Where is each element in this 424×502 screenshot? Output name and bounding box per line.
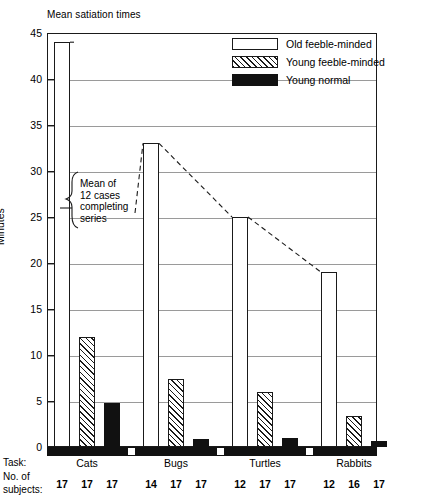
y-tick-label: 35 bbox=[20, 119, 42, 131]
y-tick-label: 45 bbox=[20, 27, 42, 39]
group-label-turtles: Turtles bbox=[249, 457, 281, 469]
subjects-row-label-line2: subjects: bbox=[3, 484, 42, 495]
legend-label-0: Old feeble-minded bbox=[286, 38, 372, 50]
subject-count-turtles-0: 12 bbox=[234, 478, 246, 490]
bar-rabbits-series-1 bbox=[346, 416, 362, 447]
legend-swatch-open-icon bbox=[232, 38, 278, 50]
y-axis-label: Minutes bbox=[0, 208, 6, 245]
y-tick-label: 0 bbox=[20, 441, 42, 453]
baseline-gap bbox=[216, 447, 225, 456]
bar-bugs-series-2 bbox=[193, 439, 209, 447]
chart-figure: Mean satiation times Minutes 05101520253… bbox=[0, 0, 424, 502]
legend-label-1: Young feeble-minded bbox=[286, 56, 385, 68]
y-tick-mark bbox=[47, 355, 54, 356]
gridline bbox=[48, 264, 376, 265]
gridline bbox=[48, 172, 376, 173]
baseline-segment bbox=[47, 447, 127, 456]
annotation-text: Mean of 12 cases completing series bbox=[80, 178, 128, 224]
bar-turtles-series-0 bbox=[232, 217, 248, 447]
y-tick-mark bbox=[47, 79, 54, 80]
subject-count-rabbits-1: 16 bbox=[348, 478, 360, 490]
legend-item-old-feeble-minded: Old feeble-minded bbox=[232, 36, 385, 52]
y-tick-label: 30 bbox=[20, 165, 42, 177]
y-tick-label: 15 bbox=[20, 303, 42, 315]
gridline bbox=[48, 126, 376, 127]
y-tick-mark bbox=[47, 309, 54, 310]
legend-label-2: Young normal bbox=[286, 74, 350, 86]
y-tick-mark bbox=[47, 125, 54, 126]
y-tick-mark bbox=[47, 217, 54, 218]
subject-count-rabbits-2: 17 bbox=[373, 478, 385, 490]
group-label-cats: Cats bbox=[76, 457, 98, 469]
bar-turtles-series-2 bbox=[282, 438, 298, 447]
baseline-segment bbox=[314, 447, 377, 456]
subject-count-bugs-1: 17 bbox=[170, 478, 182, 490]
baseline-gap bbox=[127, 447, 136, 456]
subject-count-cats-1: 17 bbox=[81, 478, 93, 490]
bar-rabbits-series-0 bbox=[321, 272, 337, 447]
legend-swatch-hatch-icon bbox=[232, 56, 278, 68]
y-tick-mark bbox=[47, 33, 54, 34]
bar-bugs-series-1 bbox=[168, 379, 184, 447]
baseline-gap bbox=[305, 447, 314, 456]
bar-cats-series-0 bbox=[54, 42, 70, 447]
chart-title: Mean satiation times bbox=[47, 9, 141, 20]
bar-bugs-series-0 bbox=[143, 143, 159, 447]
subjects-row-label-line1: No. of bbox=[3, 471, 30, 482]
subject-count-cats-2: 17 bbox=[106, 478, 118, 490]
bar-cats-series-1 bbox=[79, 337, 95, 447]
subject-count-cats-0: 17 bbox=[56, 478, 68, 490]
legend-item-young-feeble-minded: Young feeble-minded bbox=[232, 54, 385, 70]
baseline-segment bbox=[225, 447, 305, 456]
subject-count-turtles-2: 17 bbox=[284, 478, 296, 490]
chart-legend: Old feeble-minded Young feeble-minded Yo… bbox=[232, 36, 385, 90]
y-tick-label: 40 bbox=[20, 73, 42, 85]
y-tick-mark bbox=[47, 171, 54, 172]
y-tick-mark bbox=[47, 401, 54, 402]
subject-count-turtles-1: 17 bbox=[259, 478, 271, 490]
y-tick-mark bbox=[47, 263, 54, 264]
subject-count-rabbits-0: 12 bbox=[323, 478, 335, 490]
task-row-label: Task: bbox=[3, 457, 26, 468]
group-label-rabbits: Rabbits bbox=[336, 457, 372, 469]
legend-item-young-normal: Young normal bbox=[232, 72, 385, 88]
y-tick-label: 10 bbox=[20, 349, 42, 361]
y-tick-label: 5 bbox=[20, 395, 42, 407]
bar-turtles-series-1 bbox=[257, 392, 273, 447]
subject-count-bugs-0: 14 bbox=[145, 478, 157, 490]
y-tick-label: 20 bbox=[20, 257, 42, 269]
group-label-bugs: Bugs bbox=[164, 457, 188, 469]
subject-count-bugs-2: 17 bbox=[195, 478, 207, 490]
legend-swatch-solid-icon bbox=[232, 74, 278, 86]
bar-cats-series-2 bbox=[104, 403, 120, 447]
baseline-segment bbox=[136, 447, 216, 456]
y-tick-label: 25 bbox=[20, 211, 42, 223]
